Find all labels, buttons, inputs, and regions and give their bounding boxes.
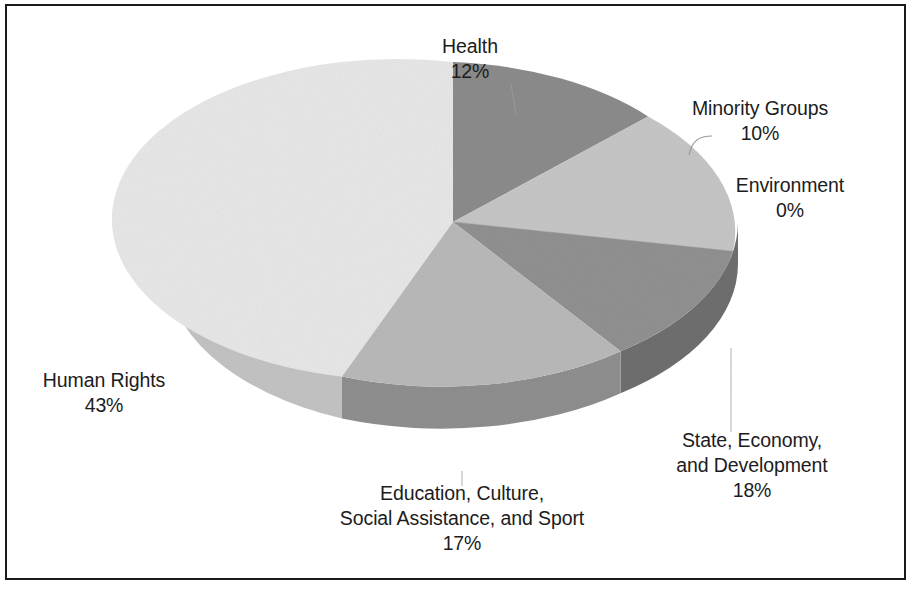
pie-chart-figure: Health 12% Minority Groups 10% Environme… <box>0 0 920 595</box>
pie-label-environment-text: Environment <box>736 173 844 198</box>
pie-label-state-economy-development-text-line1: State, Economy, <box>676 428 827 453</box>
pie-label-human-rights-text: Human Rights <box>43 368 165 393</box>
pie-label-minority-groups-value: 10% <box>692 121 828 146</box>
pie-label-minority-groups: Minority Groups 10% <box>692 96 828 146</box>
pie-label-health-text: Health <box>442 34 498 59</box>
pie-label-state-economy-development-value: 18% <box>676 478 827 503</box>
pie-label-environment-value: 0% <box>736 198 844 223</box>
pie-label-state-economy-development-text-line2: and Development <box>676 453 827 478</box>
pie-label-human-rights-value: 43% <box>43 393 165 418</box>
pie-label-minority-groups-text: Minority Groups <box>692 96 828 121</box>
pie-label-education-text-line1: Education, Culture, <box>340 481 584 506</box>
pie-label-education-culture-social-assistance-sport: Education, Culture, Social Assistance, a… <box>340 481 584 556</box>
pie-top-slices <box>112 59 735 387</box>
pie-label-education-value: 17% <box>340 531 584 556</box>
pie-label-state-economy-development: State, Economy, and Development 18% <box>676 428 827 503</box>
pie-label-education-text-line2: Social Assistance, and Sport <box>340 506 584 531</box>
pie-label-health-value: 12% <box>442 59 498 84</box>
pie-label-human-rights: Human Rights 43% <box>43 368 165 418</box>
pie-label-health: Health 12% <box>442 34 498 84</box>
pie-label-environment: Environment 0% <box>736 173 844 223</box>
